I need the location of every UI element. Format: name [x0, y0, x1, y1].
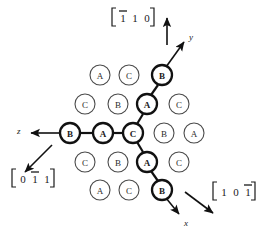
arrow-011-down-left — [25, 145, 52, 172]
atom-c-17: C — [119, 180, 139, 200]
atom-a-11: A — [184, 123, 204, 143]
miller-digit: 1 — [132, 12, 138, 24]
miller-digit: 1 — [245, 186, 251, 198]
atom-letter: A — [144, 158, 151, 168]
atom-a-8: A — [93, 123, 113, 143]
atom-a-16: A — [90, 180, 110, 200]
atom-letter: C — [126, 186, 132, 196]
bracket-left — [12, 169, 16, 187]
atom-b-2: B — [152, 65, 172, 85]
atom-a-14: A — [137, 152, 157, 172]
bracket-right — [150, 8, 154, 26]
atom-letter: B — [161, 129, 167, 139]
atom-letter: B — [67, 129, 73, 139]
atom-c-12: C — [75, 152, 95, 172]
atom-letter: C — [176, 100, 182, 110]
atom-letter: C — [82, 100, 88, 110]
miller-digit: 1 — [44, 173, 50, 185]
atom-c-9: C — [123, 123, 143, 143]
lattice-diagram-figure: yxz ACBCBACBACBACBACACB 110011101 — [0, 0, 257, 235]
atom-c-15: C — [169, 152, 189, 172]
atom-b-10: B — [154, 123, 174, 143]
atom-letter: B — [115, 100, 121, 110]
atom-letter: A — [100, 129, 107, 139]
atom-letter: C — [176, 158, 182, 168]
miller-index-0-11: 011 — [12, 169, 54, 187]
bond-y-chain-a-b — [151, 85, 158, 95]
atom-letter: B — [115, 158, 121, 168]
axis-label-x: x — [183, 218, 188, 228]
atom-letter: C — [82, 158, 88, 168]
bracket-right — [50, 169, 54, 187]
atom-c-1: C — [119, 65, 139, 85]
bracket-left — [112, 8, 116, 26]
atom-letter: A — [144, 100, 151, 110]
miller-digit: 1 — [120, 12, 126, 24]
atom-letter: A — [97, 71, 104, 81]
miller-digit: 1 — [221, 186, 227, 198]
bracket-left — [213, 182, 217, 200]
miller-digit: 1 — [32, 173, 38, 185]
miller-digit: 0 — [20, 173, 26, 185]
atom-a-5: A — [137, 94, 157, 114]
axis-label-z: z — [16, 126, 21, 136]
axis-label-y: y — [188, 32, 193, 42]
axis-line-x — [166, 198, 179, 214]
bond-x-chain-a-b — [151, 171, 158, 181]
miller-label-group: 110011101 — [12, 8, 255, 200]
axis-line-y — [166, 42, 184, 67]
atom-letter: B — [159, 186, 165, 196]
atom-a-0: A — [90, 65, 110, 85]
atom-c-3: C — [75, 94, 95, 114]
atom-b-13: B — [108, 152, 128, 172]
direction-arrow-group — [25, 18, 213, 213]
atom-letter: A — [97, 186, 104, 196]
miller-index-110: 110 — [112, 8, 154, 26]
atom-letter: C — [126, 71, 132, 81]
atom-c-6: C — [169, 94, 189, 114]
bond-y-chain-c-a — [137, 114, 143, 124]
atom-letter: B — [159, 71, 165, 81]
atom-b-18: B — [152, 180, 172, 200]
atom-letter: A — [191, 129, 198, 139]
atom-b-7: B — [60, 123, 80, 143]
atom-b-4: B — [108, 94, 128, 114]
miller-digit: 0 — [144, 12, 150, 24]
miller-digit: 0 — [233, 186, 239, 198]
bond-x-chain-c-a — [137, 142, 143, 152]
atom-letter: C — [130, 129, 137, 139]
lattice-diagram-canvas: yxz ACBCBACBACBACBACACB 110011101 — [0, 0, 257, 235]
miller-index-10-1: 101 — [213, 182, 255, 200]
arrow-101-down-right — [185, 192, 213, 213]
